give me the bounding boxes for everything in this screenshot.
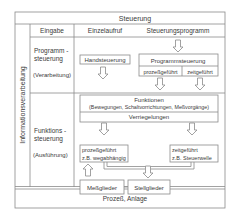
arrow-hand-to-funktionen — [98, 67, 108, 79]
header-einzelaufruf: Einzelaufruf — [88, 27, 123, 34]
row-funktions-line1: Funktions - — [34, 127, 66, 134]
footer-label: Prozeß, Anlage — [103, 195, 148, 203]
arrow-to-stellglieder — [143, 166, 153, 178]
connector-prozess-to-stell — [104, 162, 145, 169]
prozess-line2: z.B. wegabhängig — [82, 155, 126, 161]
arrow-funktionen-to-prozess — [99, 123, 109, 135]
zeit-line2: z.B. Steuerwelle — [172, 155, 212, 161]
stellglieder-label: Stellglieder — [134, 185, 164, 191]
zeit-line1: zeitgeführt — [172, 147, 198, 153]
row-programm-line3: (Verarbeitung) — [33, 72, 71, 78]
arrow-programm-to-programmsteuerung — [173, 40, 183, 52]
control-diagram: Steuerung Informationsverarbeitung Einga… — [0, 0, 238, 217]
verriegelungen-label: Verriegelungen — [129, 114, 169, 120]
row-funktions-line3: (Ausführung) — [33, 152, 68, 158]
funktionen-label: Funktionen — [134, 97, 164, 103]
side-label: Informationsverarbeitung — [19, 66, 27, 144]
arrow-funktionen-to-zeit — [187, 123, 197, 135]
zeitgefuehrt-small-label: zeitgeführt — [187, 69, 213, 75]
arrow-zeit-to-funktionen — [195, 78, 205, 90]
prozessgefuehrt-small-label: prozeßgeführt — [143, 69, 178, 75]
prozess-line1: prozeßgeführt — [82, 147, 117, 153]
row-programm-line2: steuerung — [34, 55, 63, 63]
programmsteuerung-label: Programmsteuerung — [151, 58, 206, 64]
funktionen-detail: (Bewegungen, Schaltvorrichtungen, Meßvor… — [89, 104, 209, 110]
arrow-mess-to-prozess — [83, 164, 93, 176]
header-eingabe: Eingabe — [40, 27, 64, 35]
diagram-title: Steuerung — [119, 15, 151, 23]
arrow-prozess-to-funktionen — [155, 78, 165, 90]
handsteuerung-label: Handsteuerung — [84, 57, 125, 63]
row-funktions-line2: steuerung — [34, 135, 63, 143]
outer-frame — [15, 12, 225, 208]
connector-zeit-to-stell — [151, 162, 194, 169]
header-steuerungsprogramm: Steuerungsprogramm — [147, 27, 210, 35]
messglieder-label: Meßglieder — [87, 185, 117, 191]
row-programm-line1: Programm - — [34, 47, 68, 55]
